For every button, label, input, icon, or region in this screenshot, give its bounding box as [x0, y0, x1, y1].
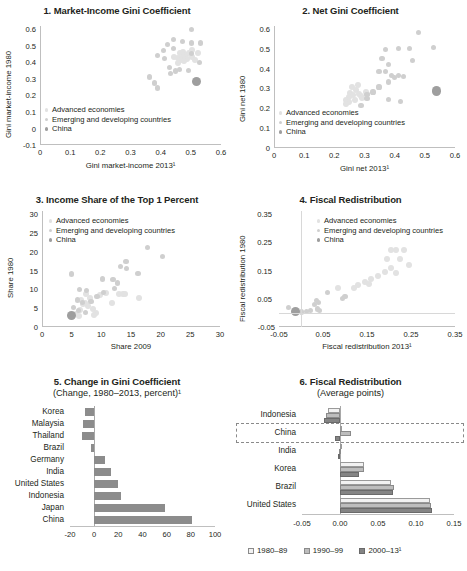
scatter-point — [386, 97, 391, 102]
panel-6-x-axis — [302, 514, 454, 515]
panel-6-legend-item-2: 2000–13¹ — [359, 546, 401, 555]
panel-4-ytick-0: 0.35 — [244, 210, 272, 219]
panel-5-bar — [85, 408, 95, 416]
panel-3-ytick-5: 5 — [10, 304, 38, 313]
panel-1-legend-item-0: Advanced economies — [44, 105, 171, 115]
panel-1-ytick-0: 0.6 — [8, 25, 36, 34]
scatter-point — [352, 97, 358, 103]
panel-5-change-in-gini: 5. Change in Gini Coefficient (Change, 1… — [0, 370, 234, 571]
panel-4-xtick-1: 0.05 — [303, 330, 343, 339]
panel-6-bar — [340, 490, 393, 495]
scatter-point — [431, 45, 436, 50]
panel-4-xtick-4: 0.35 — [435, 330, 467, 339]
scatter-point — [366, 281, 372, 287]
panel-1-ytick-1: 0.5 — [8, 42, 36, 51]
panel-3-legend-item-1: Emerging and developing countries — [48, 226, 175, 236]
panel-5-category-label: United States — [0, 479, 64, 488]
scatter-point — [291, 307, 300, 316]
scatter-point — [432, 86, 441, 95]
panel-5-category-label: Germany — [0, 455, 64, 464]
scatter-point — [83, 310, 88, 315]
panel-3-legend-item-0: Advanced economies — [48, 216, 175, 226]
scatter-point — [135, 271, 140, 276]
panel-5-subtitle: (Change, 1980–2013, percent)¹ — [6, 388, 228, 399]
panel-2-legend-item-2: China — [278, 127, 405, 137]
panel-5-category-label: China — [0, 515, 64, 524]
panel-2-title: 2. Net Gini Coefficient — [240, 5, 461, 16]
panel-6-xtick: 0.15 — [434, 519, 467, 528]
scatter-point — [123, 259, 128, 264]
scatter-point — [181, 58, 187, 64]
scatter-point — [171, 54, 177, 60]
panel-5-category-label: Brazil — [0, 443, 64, 452]
scatter-point — [376, 84, 381, 89]
panel-5-bar — [94, 456, 105, 464]
panel-1-legend-item-2: China — [44, 124, 171, 134]
panel-1-legend-label-2: China — [52, 124, 72, 133]
scatter-point — [173, 68, 178, 73]
scatter-point — [364, 96, 369, 101]
panel-3-x-axis-label: Share 2009 — [42, 342, 220, 351]
scatter-point — [171, 46, 176, 51]
panel-2-legend-item-0: Advanced economies — [278, 108, 405, 118]
scatter-point — [343, 101, 349, 107]
panel-4-xtick-2: 0.15 — [347, 330, 387, 339]
panel-6-legend-label-0: 1980–89 — [257, 546, 287, 555]
panel-1-market-income-gini: 1. Market-Income Gini Coefficient 0.6 0.… — [0, 0, 234, 190]
scatter-point — [101, 290, 106, 295]
scatter-point — [340, 296, 345, 301]
scatter-point — [407, 46, 412, 51]
panel-6-bar — [324, 418, 340, 423]
panel-6-highlight-box — [236, 423, 464, 443]
legend-swatch-icon — [304, 548, 310, 554]
panel-5-category-label: Indonesia — [0, 491, 64, 500]
panel-1-legend-label-1: Emerging and developing countries — [52, 115, 171, 124]
panel-2-legend-label-0: Advanced economies — [286, 108, 359, 117]
scatter-point — [410, 58, 415, 63]
panel-5-category-label: India — [0, 467, 64, 476]
panel-2-legend: Advanced economies Emerging and developi… — [278, 108, 405, 137]
legend-swatch-icon — [248, 548, 254, 554]
panel-6-legend-label-1: 1990–99 — [313, 546, 343, 555]
scatter-point — [393, 270, 399, 276]
panel-5-bar — [94, 480, 118, 488]
scatter-point — [168, 71, 173, 76]
panel-5-bar — [82, 432, 94, 440]
scatter-point — [160, 254, 165, 259]
panel-6-xtick: 0.10 — [396, 519, 436, 528]
panel-4-legend: Advanced economies Emerging and developi… — [316, 216, 443, 245]
panel-2-x-axis-label: Gini net 2013¹ — [274, 164, 455, 173]
panel-5-x-axis — [70, 526, 215, 527]
panel-4-legend-item-0: Advanced economies — [316, 216, 443, 226]
scatter-point — [335, 285, 341, 291]
scatter-point — [91, 312, 97, 318]
scatter-point — [416, 30, 421, 35]
panel-1-title: 1. Market-Income Gini Coefficient — [6, 5, 228, 16]
scatter-point — [195, 50, 201, 56]
panel-1-legend-item-1: Emerging and developing countries — [44, 115, 171, 125]
scatter-point — [189, 40, 194, 45]
scatter-point — [167, 65, 172, 70]
scatter-point — [94, 294, 99, 299]
panel-3-legend: Advanced economies Emerging and developi… — [48, 216, 175, 245]
scatter-point — [115, 280, 120, 285]
panel-4-y-axis-label: Fiscal redistribution 1980 — [238, 235, 247, 322]
scatter-point — [177, 67, 182, 72]
panel-1-legend: Advanced economies Emerging and developi… — [44, 105, 171, 134]
panel-4-zero-hline — [279, 313, 455, 314]
panel-5-bar — [94, 504, 165, 512]
panel-6-legend-item-0: 1980–89 — [248, 546, 287, 555]
legend-dot-icon — [49, 219, 52, 222]
panel-6-xtick: 0.00 — [320, 519, 360, 528]
panel-5-category-label: Thailand — [0, 431, 64, 440]
scatter-point — [382, 269, 388, 275]
panel-3-ytick-0: 30 — [10, 210, 38, 219]
scatter-point — [197, 60, 202, 65]
scatter-point — [392, 75, 397, 80]
panel-6-category-label: Brazil — [234, 482, 296, 491]
panel-1-legend-label-0: Advanced economies — [52, 105, 125, 114]
panel-3-top1-share: 3. Income Share of the Top 1 Percent 30 … — [0, 190, 234, 370]
panel-5-bar — [83, 420, 94, 428]
panel-3-legend-label-2: China — [56, 235, 76, 244]
scatter-point — [398, 99, 403, 104]
